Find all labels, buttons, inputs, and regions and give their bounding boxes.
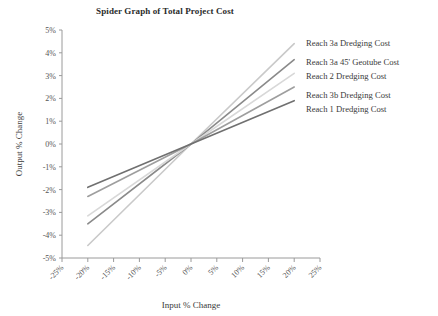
- legend-label: Reach 2 Dredging Cost: [306, 71, 386, 81]
- y-axis-tick-label: -5%: [43, 254, 57, 263]
- x-axis: -25%-20%-15%-10%-5%0%5%10%15%20%25%: [47, 258, 324, 282]
- legend-label: Reach 1 Dredging Cost: [306, 104, 386, 114]
- y-axis-tick-label: -2%: [43, 186, 57, 195]
- legend-label: Reach 3a Dredging Cost: [306, 38, 390, 48]
- series-line: [88, 101, 294, 188]
- series-lines: [88, 44, 294, 246]
- y-axis-tick-label: 2%: [45, 94, 56, 103]
- y-axis-tick-label: -1%: [43, 163, 57, 172]
- series-line: [88, 60, 294, 224]
- x-axis-tick-label: -25%: [47, 263, 66, 282]
- x-axis-tick-label: 10%: [229, 263, 246, 280]
- y-axis: -5%-4%-3%-2%-1%0%1%2%3%4%5%: [43, 26, 62, 263]
- y-axis-tick-label: -3%: [43, 208, 57, 217]
- series-line: [88, 87, 294, 196]
- x-axis-tick-label: -10%: [124, 263, 143, 282]
- y-axis-tick-label: 5%: [45, 26, 56, 35]
- y-axis-title: Output % Change: [14, 112, 24, 177]
- x-axis-tick-label: -20%: [73, 263, 92, 282]
- legend-label: Reach 3a 45' Geotube Cost: [306, 57, 399, 67]
- y-axis-tick-label: 4%: [45, 49, 56, 58]
- x-axis-title: Input % Change: [162, 300, 221, 310]
- legend-label: Reach 3b Dredging Cost: [306, 90, 391, 100]
- y-axis-tick-label: 1%: [45, 117, 56, 126]
- x-axis-tick-label: -15%: [98, 263, 117, 282]
- x-axis-tick-label: -5%: [153, 263, 169, 279]
- x-axis-tick-label: 15%: [255, 263, 272, 280]
- spider-chart: Spider Graph of Total Project Cost -5%-4…: [0, 0, 438, 316]
- y-axis-tick-label: -4%: [43, 231, 57, 240]
- x-axis-tick-label: 25%: [307, 263, 324, 280]
- x-axis-tick-label: 5%: [206, 263, 220, 277]
- x-axis-tick-label: 20%: [281, 263, 298, 280]
- y-axis-tick-label: 3%: [45, 72, 56, 81]
- y-axis-tick-label: 0%: [45, 140, 56, 149]
- x-axis-tick-label: 0%: [181, 263, 195, 277]
